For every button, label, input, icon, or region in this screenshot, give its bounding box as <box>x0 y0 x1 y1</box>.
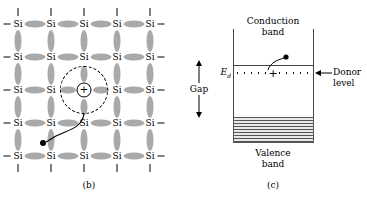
donor-level-label-line1: Donor <box>333 67 361 78</box>
band-diagram: Conduction band + Ed <box>184 0 367 202</box>
panel-silicon-lattice: SiSiSiSiSiSiSiSiSiSiSiSiSiSiSiSiSiSiSiSi… <box>0 0 184 202</box>
panel-c-caption: (c) <box>267 180 279 190</box>
donor-level-label-line2: level <box>333 78 361 89</box>
electron-path-svg <box>0 0 184 176</box>
donor-level-label: Donor level <box>333 67 361 89</box>
free-electron-icon <box>40 140 46 146</box>
electron-trajectory-icon <box>46 114 84 142</box>
panel-b-caption: (b) <box>83 180 96 190</box>
panel-band-diagram: Conduction band + Ed <box>184 0 367 202</box>
figure-root: SiSiSiSiSiSiSiSiSiSiSiSiSiSiSiSiSiSiSiSi… <box>0 0 367 202</box>
donor-callout-arrowhead-icon <box>315 70 321 76</box>
donor-callout-svg <box>184 0 367 202</box>
